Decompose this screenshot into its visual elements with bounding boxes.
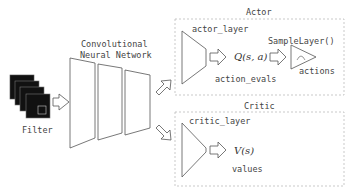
filter-label: Filter: [22, 126, 53, 135]
critic-layer-shape: [182, 123, 206, 177]
actor-title: Actor: [246, 8, 272, 17]
sample-layer-label: SampleLayer(): [268, 37, 335, 46]
critic-title: Critic: [244, 102, 275, 111]
action-evals-label: action_evals: [215, 75, 276, 84]
arrow-right-icon: [53, 94, 69, 110]
arrow-right-icon: [270, 49, 286, 65]
cnn-title-line2: Neural Network: [80, 51, 152, 60]
diagram-canvas: [0, 0, 347, 195]
actor-layer-shape: [182, 31, 206, 84]
cnn-title-line1: Convolutional: [81, 40, 148, 49]
critic-layer-label: critic_layer: [189, 117, 250, 126]
v-expression: V(s): [234, 146, 254, 156]
arrow-down-right-icon: [156, 125, 171, 140]
filter-stack-icon: [10, 75, 50, 118]
actor-layer-label: actor_layer: [192, 25, 248, 34]
arrow-up-right-icon: [156, 80, 171, 95]
values-label: values: [232, 165, 263, 174]
q-expression: Q(s, a): [234, 52, 267, 62]
arrow-right-icon: [210, 49, 226, 65]
cnn-layers: [70, 58, 150, 148]
arrow-right-icon: [210, 142, 226, 158]
actions-label: actions: [299, 67, 335, 76]
